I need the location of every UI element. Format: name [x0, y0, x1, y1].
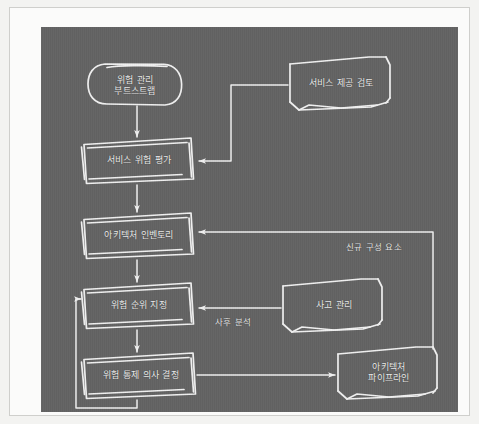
node-shape-bootstrap — [88, 64, 182, 105]
node-shape-arch-pipe — [338, 347, 437, 399]
node-shape-incident — [283, 279, 382, 332]
node-shape-risk-rank — [82, 283, 194, 329]
edge-label-new-components: 신규 구성 요소 — [346, 240, 402, 252]
screenshot-root: 위험 관리 부트스트랩 서비스 위험 평가 아키텍처 인벤토리 위험 순위 지정… — [0, 0, 479, 424]
edge-svc-review-to-svc-risk — [199, 85, 288, 161]
node-shape-svc-review — [290, 57, 390, 110]
diagram-canvas: 위험 관리 부트스트랩 서비스 위험 평가 아키텍처 인벤토리 위험 순위 지정… — [41, 27, 458, 412]
image-frame: 위험 관리 부트스트랩 서비스 위험 평가 아키텍처 인벤토리 위험 순위 지정… — [9, 7, 470, 416]
node-shape-risk-ctrl — [82, 353, 196, 399]
node-shape-arch-inv — [82, 213, 194, 259]
diagram-vector-layer — [41, 27, 458, 412]
node-shape-svc-risk — [82, 138, 194, 184]
edge-label-postmortem: 사후 분석 — [215, 315, 251, 327]
